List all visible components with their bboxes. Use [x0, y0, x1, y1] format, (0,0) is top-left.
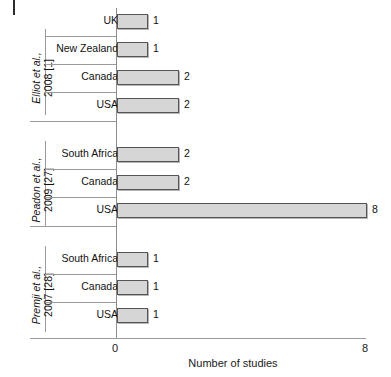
x-axis-title: Number of studies — [0, 357, 391, 369]
bar-row: South Africa 1 — [0, 246, 391, 274]
x-tick-label-8: 8 — [362, 342, 368, 354]
bar-value-label: 8 — [372, 203, 378, 215]
bar-row: USA 1 — [0, 302, 391, 330]
category-label: New Zealand — [56, 42, 118, 54]
category-label: South Africa — [61, 252, 118, 264]
bar — [117, 308, 148, 323]
bar — [117, 147, 179, 162]
bar-row: UK 1 — [0, 8, 391, 36]
bar-value-label: 1 — [153, 308, 159, 320]
category-label: UK — [103, 14, 118, 26]
bar-value-label: 2 — [184, 175, 190, 187]
category-label: USA — [96, 308, 118, 320]
bar-value-label: 2 — [184, 70, 190, 82]
bar — [117, 42, 148, 57]
bar-row: Canada 2 — [0, 169, 391, 197]
bar-value-label: 2 — [184, 147, 190, 159]
bar-row: New Zealand 1 — [0, 36, 391, 64]
bar-row: USA 8 — [0, 197, 391, 225]
bar — [117, 70, 179, 85]
group-separator — [30, 121, 116, 122]
bar-value-label: 1 — [153, 252, 159, 264]
bar-row: South Africa 2 — [0, 141, 391, 169]
group-separator — [30, 226, 116, 227]
category-label: USA — [96, 203, 118, 215]
bar-value-label: 2 — [184, 98, 190, 110]
bar-value-label: 1 — [153, 280, 159, 292]
x-axis-title-text: Number of studies — [113, 357, 277, 369]
bar — [117, 14, 148, 29]
category-label: Canada — [81, 70, 118, 82]
bar — [117, 175, 179, 190]
bar — [117, 98, 179, 113]
bar — [117, 252, 148, 267]
category-label: USA — [96, 98, 118, 110]
bar-row: USA 2 — [0, 92, 391, 120]
category-label: Canada — [81, 280, 118, 292]
bar — [117, 203, 367, 218]
figure-bar-chart: 0 8 Number of studies Elliot et al., 200… — [0, 0, 391, 377]
bar — [117, 280, 148, 295]
category-label: Canada — [81, 175, 118, 187]
bar-row: Canada 1 — [0, 274, 391, 302]
bar-value-label: 1 — [153, 42, 159, 54]
bar-value-label: 1 — [153, 14, 159, 26]
category-label: South Africa — [61, 147, 118, 159]
x-tick-label-0: 0 — [112, 342, 118, 354]
bar-row: Canada 2 — [0, 64, 391, 92]
x-axis-line — [30, 338, 366, 339]
